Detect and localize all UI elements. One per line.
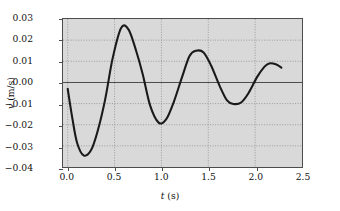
y-axis-label: v (m/s) — [5, 77, 16, 109]
x-tick-label: 0.5 — [107, 172, 122, 181]
x-tick-label: 1.0 — [154, 172, 169, 181]
plot-area — [62, 18, 303, 168]
y-tick-label: 0.03 — [13, 13, 33, 22]
y-tick-label: 0.00 — [13, 78, 33, 87]
y-tick-mark — [59, 83, 63, 84]
y-tick-label: 0.02 — [13, 35, 33, 44]
y-tick-label: −0.02 — [5, 121, 33, 130]
x-axis-label: t (s) — [0, 190, 340, 201]
y-tick-mark — [59, 19, 63, 20]
y-tick-mark — [59, 169, 63, 170]
y-tick-mark — [59, 62, 63, 63]
x-tick-label: 0.0 — [59, 172, 74, 181]
y-tick-mark — [59, 40, 63, 41]
x-tick-label: 1.5 — [201, 172, 216, 181]
figure: 0.030.020.010.00−0.01−0.02−0.03−0.04 0.0… — [0, 0, 340, 211]
x-tick-label: 2.5 — [296, 172, 311, 181]
y-tick-label: −0.04 — [5, 163, 33, 172]
y-tick-label: −0.03 — [5, 142, 33, 151]
y-tick-mark — [59, 148, 63, 149]
y-tick-label: 0.01 — [13, 56, 33, 65]
data-curve — [63, 19, 302, 167]
x-tick-label: 2.0 — [248, 172, 263, 181]
y-tick-mark — [59, 105, 63, 106]
y-tick-mark — [59, 126, 63, 127]
